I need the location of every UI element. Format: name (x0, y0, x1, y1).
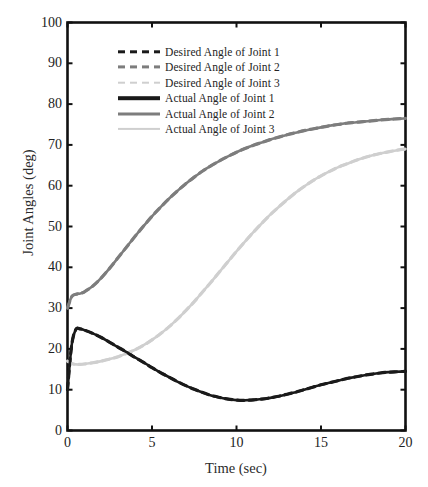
legend-item-4: Actual Angle of Joint 1 (118, 91, 348, 107)
legend-item-5: Actual Angle of Joint 2 (118, 106, 348, 122)
legend-line-swatch (118, 77, 160, 89)
y-tick-label: 10 (28, 383, 62, 397)
y-tick-label: 20 (28, 342, 62, 356)
series-line-actual_joint2 (68, 118, 406, 308)
y-tick-label: 90 (28, 56, 62, 70)
y-tick-label: 30 (28, 301, 62, 315)
legend-item-1: Desired Angle of Joint 1 (118, 44, 348, 60)
legend-label: Desired Angle of Joint 1 (165, 46, 280, 58)
legend-label: Actual Angle of Joint 1 (165, 92, 275, 104)
legend-line-swatch (118, 61, 160, 73)
x-tick-label: 5 (132, 436, 172, 450)
y-tick-label: 100 (28, 16, 62, 30)
legend-line-swatch (118, 46, 160, 58)
legend-label: Actual Angle of Joint 3 (165, 123, 275, 135)
y-tick-label: 80 (28, 97, 62, 111)
joint-angles-chart: 0102030405060708090100 05101520 Joint An… (0, 0, 428, 487)
legend-label: Actual Angle of Joint 2 (165, 108, 275, 120)
legend-line-swatch (118, 108, 160, 120)
series-line-actual_joint1 (68, 328, 406, 400)
legend-item-3: Desired Angle of Joint 3 (118, 75, 348, 91)
legend-item-2: Desired Angle of Joint 2 (118, 60, 348, 76)
x-axis-title: Time (sec) (67, 460, 405, 477)
legend-item-6: Actual Angle of Joint 3 (118, 122, 348, 138)
legend-line-swatch (118, 92, 160, 104)
legend-label: Desired Angle of Joint 2 (165, 61, 280, 73)
legend-line-swatch (118, 123, 160, 135)
y-axis-title: Joint Angles (deg) (20, 113, 37, 293)
x-tick-label: 0 (48, 436, 88, 450)
x-tick-label: 10 (217, 436, 257, 450)
x-axis-tick-labels: 05101520 (0, 436, 428, 458)
x-tick-label: 20 (386, 436, 426, 450)
chart-legend: Desired Angle of Joint 1Desired Angle of… (118, 44, 348, 137)
series-line-desired_joint2 (68, 118, 406, 308)
legend-label: Desired Angle of Joint 3 (165, 77, 280, 89)
x-tick-label: 15 (301, 436, 341, 450)
series-line-desired_joint1 (68, 328, 406, 400)
